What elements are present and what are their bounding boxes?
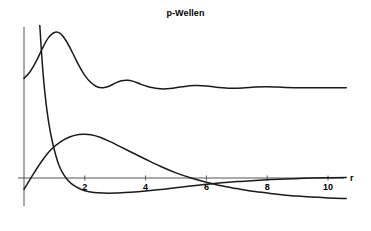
chart-page: p-Wellen 246810 r: [0, 0, 371, 231]
curve-oscillating-upper: [24, 32, 346, 89]
x-axis-tick-label: 8: [265, 182, 270, 192]
plot-area: 246810 r: [0, 0, 371, 231]
x-axis-tick-label: 10: [323, 182, 333, 192]
x-axis-label: r: [350, 173, 354, 183]
curve-radial-distribution-hump: [24, 134, 346, 198]
curve-steep-decaying: [40, 25, 346, 193]
